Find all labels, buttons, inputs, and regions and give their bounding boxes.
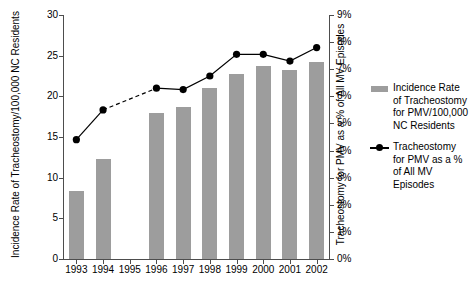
secondary-y-tick: [330, 69, 334, 70]
y-tick-label: 15: [0, 132, 58, 142]
y-tick-label: 25: [0, 51, 58, 61]
secondary-y-axis-title: Tracheostomy for PMV as a % of All MV Ep…: [335, 11, 346, 259]
bar-swatch-icon: [371, 86, 388, 92]
secondary-y-tick: [330, 259, 334, 260]
secondary-y-tick-label: 9%: [337, 10, 377, 20]
data-point-marker: [286, 57, 293, 64]
data-point-marker: [180, 86, 187, 93]
legend-item-line: Tracheostomy for PMV as a % of All MV Ep…: [370, 141, 470, 191]
data-point-marker: [206, 72, 213, 79]
y-tick-label: 20: [0, 91, 58, 101]
y-tick-label: 0: [0, 254, 58, 264]
plot-area: 051015202530 0%1%2%3%4%5%6%7%8%9% 199319…: [63, 15, 330, 259]
data-point-marker: [313, 44, 320, 51]
secondary-y-tick-label: 2%: [337, 200, 377, 210]
dot-marker-icon: [376, 144, 383, 151]
secondary-y-tick-label: 1%: [337, 227, 377, 237]
secondary-y-tick: [330, 151, 334, 152]
data-point-marker: [153, 85, 160, 92]
legend-item-line-label: Tracheostomy for PMV as a % of All MV Ep…: [393, 141, 470, 191]
y-tick-label: 30: [0, 10, 58, 20]
legend-item-bar: Incidence Rate of Tracheostomy for PMV/1…: [370, 82, 470, 132]
secondary-y-tick: [330, 205, 334, 206]
x-tick-label: 2002: [297, 265, 337, 275]
data-point-marker: [233, 51, 240, 58]
secondary-y-tick-label: 8%: [337, 37, 377, 47]
secondary-y-tick: [330, 42, 334, 43]
data-point-marker: [260, 51, 267, 58]
data-point-marker: [99, 106, 106, 113]
data-point-marker: [73, 136, 80, 143]
y-tick-label: 5: [0, 213, 58, 223]
secondary-y-tick: [330, 96, 334, 97]
y-tick-label: 10: [0, 173, 58, 183]
chart-legend: Incidence Rate of Tracheostomy for PMV/1…: [370, 82, 470, 200]
chart-figure: Incidence Rate of Tracheostomy/100,000 N…: [0, 0, 472, 282]
secondary-y-tick: [330, 178, 334, 179]
secondary-y-tick-label: 7%: [337, 64, 377, 74]
secondary-y-tick-label: 0%: [337, 254, 377, 264]
legend-item-bar-label: Incidence Rate of Tracheostomy for PMV/1…: [393, 82, 470, 132]
secondary-y-tick: [330, 123, 334, 124]
secondary-y-tick: [330, 15, 334, 16]
line-series: [63, 15, 330, 260]
secondary-y-tick: [330, 232, 334, 233]
